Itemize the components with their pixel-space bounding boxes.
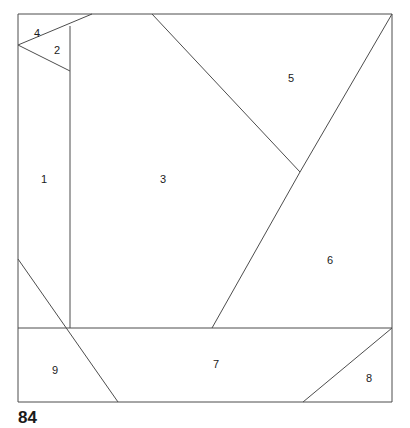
figure-container: 123456789 84 [0, 0, 410, 428]
region-2-label: 2 [54, 44, 60, 56]
region-1-label: 1 [41, 173, 47, 185]
partition-diagram: 123456789 [0, 0, 410, 428]
region-8-label: 8 [366, 372, 372, 384]
region-5-label: 5 [288, 72, 294, 84]
figure-caption: 84 [18, 409, 37, 426]
region-4-label: 4 [34, 27, 40, 39]
region-6-label: 6 [327, 254, 333, 266]
region-3-label: 3 [160, 173, 166, 185]
region-7-label: 7 [213, 358, 219, 370]
region-9-label: 9 [52, 364, 58, 376]
regions-layer [18, 14, 392, 402]
